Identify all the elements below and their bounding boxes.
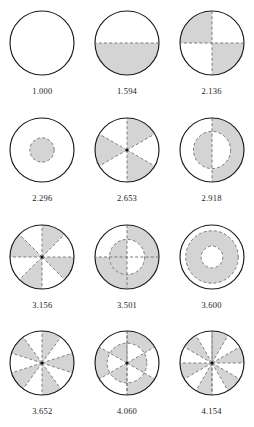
diagram-cell: 3.652 xyxy=(0,320,85,427)
diagram-label: 3.652 xyxy=(32,407,52,416)
symmetry-diagram xyxy=(173,113,251,191)
diagram-label: 2.296 xyxy=(32,194,52,203)
diagram-label: 4.154 xyxy=(202,407,222,416)
diagram-cell: 1.000 xyxy=(0,0,85,107)
symmetry-diagram xyxy=(173,6,251,84)
diagram-label: 2.918 xyxy=(202,194,222,203)
diagram-label: 1.594 xyxy=(117,87,137,96)
symmetry-diagram xyxy=(3,113,81,191)
diagram-cell: 4.154 xyxy=(169,320,254,427)
diagram-cell: 2.136 xyxy=(169,0,254,107)
diagram-cell: 2.296 xyxy=(0,107,85,214)
symmetry-diagram xyxy=(3,220,81,298)
diagram-label: 3.600 xyxy=(202,301,222,310)
diagram-cell: 2.653 xyxy=(85,107,170,214)
symmetry-diagram xyxy=(3,6,81,84)
symmetry-diagram xyxy=(3,326,81,404)
symmetry-diagram xyxy=(88,113,166,191)
figure-grid: 1.0001.5942.1362.2962.6532.9183.1563.501… xyxy=(0,0,254,427)
symmetry-diagram xyxy=(88,6,166,84)
diagram-cell: 3.501 xyxy=(85,214,170,321)
diagram-cell: 3.156 xyxy=(0,214,85,321)
diagram-label: 3.156 xyxy=(32,301,52,310)
symmetry-diagram xyxy=(173,220,251,298)
diagram-cell: 2.918 xyxy=(169,107,254,214)
diagram-cell: 4.060 xyxy=(85,320,170,427)
diagram-cell: 3.600 xyxy=(169,214,254,321)
symmetry-diagram xyxy=(88,220,166,298)
symmetry-diagram xyxy=(88,326,166,404)
diagram-label: 3.501 xyxy=(117,301,137,310)
diagram-cell: 1.594 xyxy=(85,0,170,107)
diagram-label: 2.136 xyxy=(202,87,222,96)
symmetry-diagram xyxy=(173,326,251,404)
diagram-label: 2.653 xyxy=(117,194,137,203)
diagram-label: 1.000 xyxy=(32,87,52,96)
diagram-label: 4.060 xyxy=(117,407,137,416)
